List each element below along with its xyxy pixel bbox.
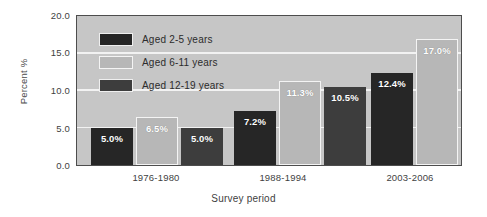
legend-item-aged-2-5: Aged 2-5 years — [99, 28, 224, 51]
y-axis-tick-labels: 20.0 15.0 10.0 5.0 0.0 — [30, 0, 70, 217]
legend-item-label: Aged 12-19 years — [142, 80, 224, 91]
legend-swatch-icon — [99, 33, 133, 46]
legend-item-label: Aged 6-11 years — [142, 57, 218, 68]
legend-swatch-icon — [99, 56, 133, 69]
bar-value-label: 10.5% — [324, 92, 366, 103]
y-axis-title: Percent % — [18, 42, 29, 122]
bar-chart-figure: Percent % 20.0 15.0 10.0 5.0 0.0 5.0% 6.… — [0, 0, 487, 217]
bar-value-label: 17.6% — [461, 39, 462, 50]
legend-item-label: Aged 2-5 years — [142, 34, 213, 45]
y-tick-20: 20.0 — [36, 10, 70, 21]
legend-item-aged-6-11: Aged 6-11 years — [99, 51, 224, 74]
bar-2003-2006-aged-2-5: 12.4% — [371, 73, 413, 165]
bar-1976-1980-aged-6-11: 6.5% — [136, 117, 178, 165]
x-tick-1988-1994: 1988-1994 — [223, 172, 343, 183]
bar-value-label: 12.4% — [371, 78, 413, 89]
y-tick-15: 15.0 — [36, 47, 70, 58]
legend: Aged 2-5 years Aged 6-11 years Aged 12-1… — [99, 28, 224, 97]
bar-1988-1994-aged-12-19: 10.5% — [324, 87, 366, 165]
bar-value-label: 6.5% — [137, 123, 177, 134]
y-tick-10: 10.0 — [36, 85, 70, 96]
bar-value-label: 17.0% — [417, 45, 457, 56]
y-tick-0: 0.0 — [36, 160, 70, 171]
bar-value-label: 11.3% — [280, 87, 320, 98]
bar-value-label: 7.2% — [234, 116, 276, 127]
bar-2003-2006-aged-12-19: 17.6% — [461, 34, 462, 165]
bar-1976-1980-aged-2-5: 5.0% — [91, 128, 133, 165]
x-axis-title: Survey period — [0, 193, 487, 204]
y-tick-5: 5.0 — [36, 123, 70, 134]
bar-2003-2006-aged-6-11: 17.0% — [416, 39, 458, 166]
legend-item-aged-12-19: Aged 12-19 years — [99, 74, 224, 97]
x-tick-2003-2006: 2003-2006 — [350, 172, 470, 183]
bar-value-label: 5.0% — [91, 133, 133, 144]
legend-swatch-icon — [99, 79, 133, 92]
plot-area: 5.0% 6.5% 5.0% 7.2% 11.3% 10.5% 12.4% 17… — [76, 15, 462, 166]
bar-1988-1994-aged-6-11: 11.3% — [279, 81, 321, 165]
bar-1988-1994-aged-2-5: 7.2% — [234, 111, 276, 165]
x-tick-1976-1980: 1976-1980 — [96, 172, 216, 183]
bar-value-label: 5.0% — [181, 133, 223, 144]
bar-1976-1980-aged-12-19: 5.0% — [181, 128, 223, 165]
